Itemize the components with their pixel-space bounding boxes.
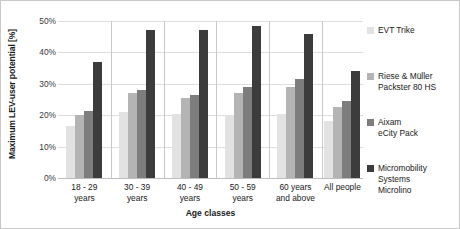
legend-swatch-icon — [367, 27, 374, 34]
bar — [119, 112, 128, 178]
y-axis-tick-label: 30% — [22, 79, 56, 89]
bar — [333, 107, 342, 178]
legend-item-label: Aixam eCity Pack — [378, 117, 418, 139]
bar — [75, 115, 84, 178]
category-separator — [216, 21, 217, 178]
x-axis-tick-label: 30 - 39years — [111, 180, 164, 210]
bar — [252, 26, 261, 178]
bar — [172, 114, 181, 178]
chart-legend: EVT TrikeRiese & Müller Packster 80 HSAi… — [367, 19, 459, 204]
bar-chart: Maximum LEV-user potential [%] 0%10%20%3… — [0, 0, 460, 229]
legend-item-label: Micromobility Systems Microlino — [378, 163, 427, 196]
legend-swatch-icon — [367, 119, 374, 126]
legend-item[interactable]: Riese & Müller Packster 80 HS — [367, 71, 436, 93]
bar — [351, 71, 360, 178]
axis-baseline — [58, 178, 363, 179]
bar-group — [164, 21, 217, 178]
bar — [225, 115, 234, 178]
x-axis-tick-label: 50 - 59years — [216, 180, 269, 210]
bar — [181, 98, 190, 178]
y-axis-tick-label: 40% — [22, 47, 56, 57]
bar — [190, 95, 199, 178]
legend-item[interactable]: Aixam eCity Pack — [367, 117, 418, 139]
plot-area — [58, 21, 363, 178]
x-axis-tick-label: 40 - 49years — [164, 180, 217, 210]
x-axis-tick-label: 18 - 29years — [58, 180, 111, 210]
bar — [199, 30, 208, 178]
bar — [93, 62, 102, 178]
legend-swatch-icon — [367, 73, 374, 80]
y-axis-tick-label: 20% — [22, 110, 56, 120]
bar — [324, 121, 333, 178]
y-axis-title-text: Maximum LEV-user potential [%] — [7, 28, 17, 158]
bar — [66, 126, 75, 178]
x-axis-tick-labels: 18 - 29years30 - 39years40 - 49years50 -… — [58, 180, 363, 210]
bar — [84, 111, 93, 179]
bar-group — [269, 21, 322, 178]
y-axis-tick-label: 0% — [22, 173, 56, 183]
bar — [137, 90, 146, 178]
category-separator — [111, 21, 112, 178]
legend-swatch-icon — [367, 165, 374, 172]
legend-item-label: Riese & Müller Packster 80 HS — [378, 71, 436, 93]
y-axis-tick-labels: 0%10%20%30%40%50% — [18, 1, 56, 229]
bar-group — [322, 21, 363, 178]
category-separator — [322, 21, 323, 178]
bar — [146, 30, 155, 178]
bar — [295, 79, 304, 178]
legend-item-label: EVT Trike — [378, 25, 415, 36]
bar — [128, 93, 137, 178]
bar — [304, 34, 313, 178]
bar-group — [216, 21, 269, 178]
bar — [277, 114, 286, 178]
y-axis-tick-label: 50% — [22, 16, 56, 26]
bar — [342, 101, 351, 178]
bars-layer — [58, 21, 363, 178]
x-axis-tick-label: All people — [322, 180, 363, 210]
legend-item[interactable]: Micromobility Systems Microlino — [367, 163, 427, 196]
bar — [243, 87, 252, 178]
x-axis-title: Age classes — [58, 208, 363, 218]
x-axis-tick-label: 60 yearsand above — [269, 180, 322, 210]
category-separator — [164, 21, 165, 178]
bar — [286, 87, 295, 178]
bar-group — [111, 21, 164, 178]
bar — [234, 93, 243, 178]
bar-group — [58, 21, 111, 178]
legend-item[interactable]: EVT Trike — [367, 25, 415, 36]
category-separator — [269, 21, 270, 178]
y-axis-tick-label: 10% — [22, 142, 56, 152]
